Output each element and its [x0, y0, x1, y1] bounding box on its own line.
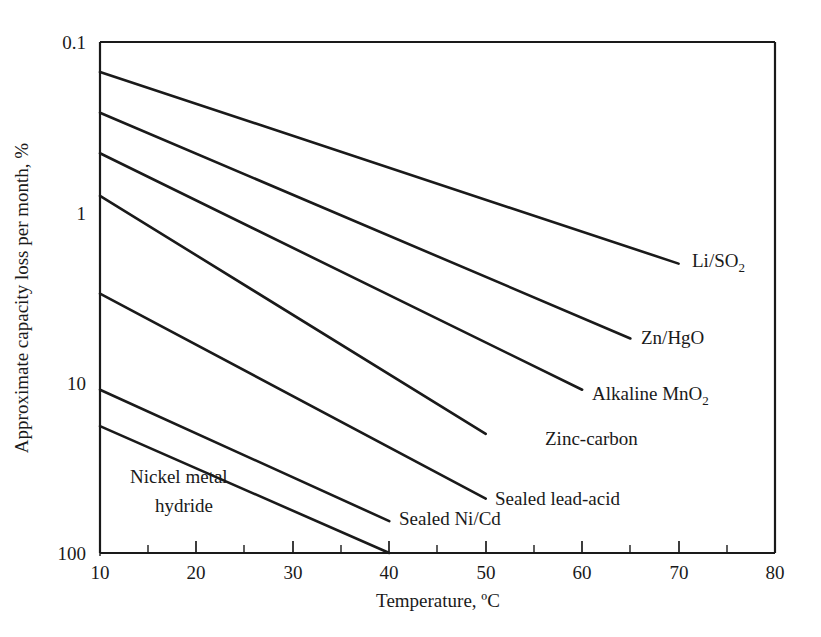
series-label-alkaline-mno2: Alkaline MnO2 — [592, 383, 709, 409]
x-axis-minor-ticks — [148, 545, 727, 553]
series-line-nickel-metal-hydride — [100, 426, 389, 553]
x-tick-label-30: 30 — [284, 562, 303, 584]
series-label-sealed-lead-acid: Sealed lead-acid — [495, 488, 620, 510]
y-tick-label-100: 100 — [58, 543, 87, 565]
x-tick-label-60: 60 — [573, 562, 592, 584]
y-tick-label-1: 1 — [77, 203, 87, 225]
series-label-li-so2-text: Li/SO — [692, 250, 738, 271]
x-axis-title: Temperature, ºC — [376, 590, 500, 612]
chart-plot-area — [0, 0, 821, 637]
x-tick-label-10: 10 — [91, 562, 110, 584]
x-tick-label-80: 80 — [766, 562, 785, 584]
series-label-li-so2: Li/SO2 — [692, 250, 745, 276]
series-label-alkaline-mno2-subscript: 2 — [702, 393, 709, 408]
series-label-nimh-line1: Nickel metal — [130, 466, 228, 488]
series-line-sealed-ni-cd — [100, 390, 389, 521]
series-line-zn-hgo — [100, 113, 630, 339]
chart-container: 10 20 30 40 50 60 70 80 0.1 1 10 100 Tem… — [0, 0, 821, 637]
y-axis-title: Approximate capacity loss per month, % — [11, 143, 33, 453]
y-tick-label-10: 10 — [67, 373, 86, 395]
x-tick-label-40: 40 — [380, 562, 399, 584]
series-line-alkaline-mno2 — [100, 153, 582, 389]
series-label-sealed-nicd: Sealed Ni/Cd — [399, 508, 501, 530]
series-label-alkaline-mno2-text: Alkaline MnO — [592, 383, 702, 404]
x-tick-label-70: 70 — [670, 562, 689, 584]
series-label-li-so2-subscript: 2 — [738, 260, 745, 275]
y-tick-label-0.1: 0.1 — [62, 32, 86, 54]
series-label-nimh-line2: hydride — [155, 495, 213, 517]
series-label-zn-hgo: Zn/HgO — [641, 327, 704, 349]
x-tick-label-50: 50 — [477, 562, 496, 584]
series-label-zinc-carbon: Zinc-carbon — [545, 428, 638, 450]
x-tick-label-20: 20 — [187, 562, 206, 584]
